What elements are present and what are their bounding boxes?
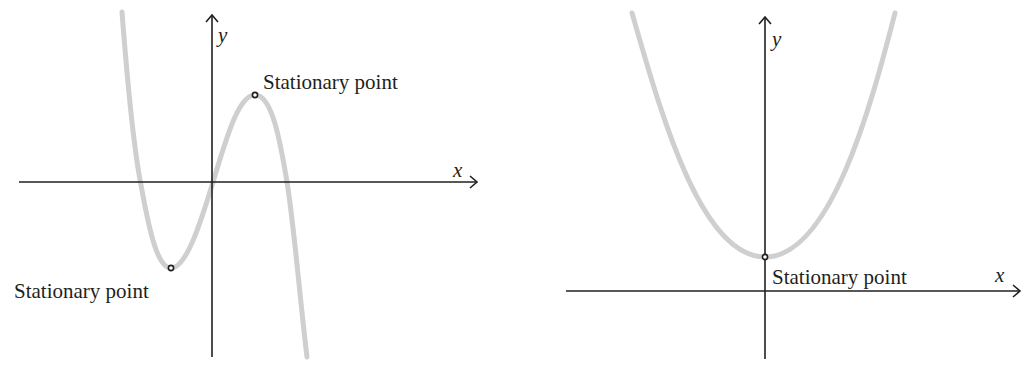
x-axis-label: x	[994, 263, 1005, 287]
left-graph: y x Stationary point Stationary point	[14, 12, 477, 357]
stationary-point-min-label: Stationary point	[772, 265, 907, 289]
stationary-point-min-marker	[762, 254, 767, 259]
y-axis-label: y	[770, 27, 782, 51]
stationary-point-max-marker	[252, 92, 257, 97]
stationary-point-max-label: Stationary point	[263, 70, 398, 94]
y-axis-label: y	[216, 23, 228, 47]
cubic-curve	[122, 12, 307, 357]
stationary-points-figure: y x Stationary point Stationary point y …	[0, 0, 1022, 365]
parabola-curve	[632, 13, 895, 257]
x-axis-label: x	[452, 158, 463, 182]
stationary-point-min-label: Stationary point	[14, 279, 149, 303]
stationary-point-min-marker	[168, 265, 173, 270]
right-graph: y x Stationary point	[566, 13, 1020, 359]
